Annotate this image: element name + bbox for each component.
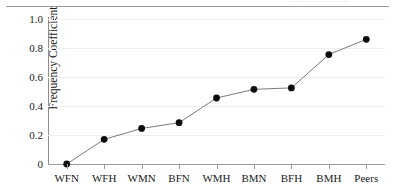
data-point: [363, 36, 370, 43]
series-line: [67, 39, 367, 164]
x-tick-label: WFH: [92, 172, 116, 184]
data-point: [176, 119, 183, 126]
x-tick-mark: [104, 164, 105, 169]
figure-container: ……… ………… Frequency Coefficient 1.00.80.6…: [0, 0, 395, 195]
x-tick-label: Peers: [354, 172, 378, 184]
x-tick-label: WMH: [202, 172, 230, 184]
x-tick-label: BFN: [168, 172, 189, 184]
x-tick-mark: [329, 164, 330, 169]
data-point: [325, 51, 332, 58]
x-tick-label: WMN: [128, 172, 156, 184]
y-tick-label: 0: [38, 159, 44, 170]
y-tick-label: 1.0: [29, 14, 43, 25]
series-plot: [0, 0, 395, 195]
y-tick-label: 0.2: [29, 130, 43, 141]
x-tick-mark: [254, 164, 255, 169]
series-markers: [63, 36, 369, 168]
data-point: [138, 125, 145, 132]
y-tick-label: 0.8: [29, 43, 43, 54]
x-tick-mark: [217, 164, 218, 169]
x-tick-mark: [67, 164, 68, 169]
x-tick-mark: [179, 164, 180, 169]
data-point: [101, 136, 108, 143]
y-tick-label: 0.4: [29, 101, 43, 112]
x-tick-mark: [366, 164, 367, 169]
x-tick-label: BMH: [316, 172, 341, 184]
x-tick-label: BFH: [281, 172, 302, 184]
y-tick-label: 0.6: [29, 72, 43, 83]
x-tick-mark: [291, 164, 292, 169]
data-point: [288, 84, 295, 91]
x-tick-label: BMN: [241, 172, 266, 184]
x-tick-mark: [142, 164, 143, 169]
data-point: [251, 86, 258, 93]
data-point: [213, 95, 220, 102]
x-tick-label: WFN: [54, 172, 78, 184]
